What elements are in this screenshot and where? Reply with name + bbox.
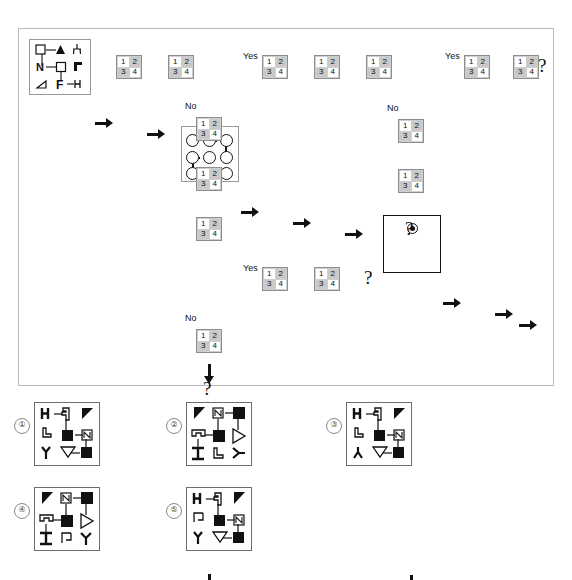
grid-cell: 2 bbox=[210, 331, 221, 341]
branch-label-yes: Yes bbox=[243, 52, 258, 61]
grid-cell: 1 bbox=[400, 171, 411, 181]
option-number: ⑤ bbox=[166, 503, 182, 519]
option-5-glyphs bbox=[187, 488, 251, 550]
grid-cell: 3 bbox=[198, 130, 209, 140]
arrow-right bbox=[345, 229, 363, 240]
grid-cell: 3 bbox=[400, 132, 411, 142]
grid-cell: 3 bbox=[400, 182, 411, 192]
branch-label-yes: Yes bbox=[445, 52, 460, 61]
grid-cell: 4 bbox=[276, 68, 287, 78]
node-circle bbox=[203, 151, 216, 164]
grid-cell: 4 bbox=[527, 68, 538, 78]
branch-label-yes: Yes bbox=[243, 264, 258, 273]
grid-cell: 4 bbox=[182, 68, 193, 78]
grid-cell: 1 bbox=[198, 169, 209, 179]
grid-cell: 3 bbox=[198, 230, 209, 240]
grid-cell: 4 bbox=[380, 68, 391, 78]
grid-cell: 1 bbox=[466, 57, 477, 67]
grid-cell: 3 bbox=[316, 280, 327, 290]
grid-cell: 2 bbox=[210, 169, 221, 179]
grid-cell: 3 bbox=[198, 342, 209, 352]
grid-cell: 2 bbox=[276, 269, 287, 279]
state-grid: 1 2 3 4 bbox=[398, 169, 424, 193]
state-grid: 1 2 3 4 bbox=[513, 55, 539, 79]
unknown-result: ? bbox=[364, 268, 372, 287]
option-number: ② bbox=[166, 418, 182, 434]
svg-text:N: N bbox=[36, 61, 44, 73]
state-grid: 1 2 3 4 bbox=[314, 55, 340, 79]
branch-label-no: No bbox=[387, 104, 399, 113]
arrow-right bbox=[495, 309, 513, 320]
option-symbol-box[interactable] bbox=[34, 402, 100, 466]
node-circle bbox=[186, 151, 199, 164]
grid-cell: 4 bbox=[210, 130, 221, 140]
option-symbol-box[interactable] bbox=[186, 487, 252, 551]
grid-cell: 4 bbox=[328, 280, 339, 290]
grid-cell: 3 bbox=[264, 68, 275, 78]
option-number: ① bbox=[14, 418, 30, 434]
grid-cell: 4 bbox=[210, 180, 221, 190]
option-number: ③ bbox=[326, 418, 342, 434]
grid-cell: 1 bbox=[264, 57, 275, 67]
arrow-right bbox=[519, 320, 537, 331]
option-1-glyphs bbox=[35, 403, 99, 465]
option-4-glyphs bbox=[35, 488, 99, 550]
grid-cell: 1 bbox=[198, 119, 209, 129]
state-grid: 1 2 3 4 bbox=[196, 167, 222, 191]
state-grid: 1 2 3 4 bbox=[464, 55, 490, 79]
option-symbol-box[interactable] bbox=[34, 487, 100, 551]
grid-cell: 1 bbox=[198, 219, 209, 229]
grid-cell: 2 bbox=[380, 57, 391, 67]
grid-cell: 4 bbox=[210, 342, 221, 352]
grid-cell: 2 bbox=[328, 57, 339, 67]
option-symbol-box[interactable] bbox=[186, 402, 252, 466]
flowchart-panel: N F 1 2 3 4 1 2 3 4 bbox=[18, 28, 554, 386]
option-symbol-box[interactable] bbox=[346, 402, 412, 466]
grid-cell: 3 bbox=[515, 68, 526, 78]
grid-cell: 2 bbox=[210, 119, 221, 129]
grid-cell: 2 bbox=[527, 57, 538, 67]
unknown-result: ? bbox=[405, 219, 413, 238]
state-grid: 1 2 3 4 bbox=[116, 55, 142, 79]
grid-cell: 3 bbox=[316, 68, 327, 78]
grid-cell: 4 bbox=[276, 280, 287, 290]
option-3-glyphs bbox=[347, 403, 411, 465]
grid-cell: 2 bbox=[130, 57, 141, 67]
grid-cell: 1 bbox=[316, 269, 327, 279]
grid-cell: 3 bbox=[264, 280, 275, 290]
arrow-right bbox=[443, 298, 461, 309]
grid-cell: 2 bbox=[210, 219, 221, 229]
grid-cell: 4 bbox=[412, 132, 423, 142]
grid-cell: 2 bbox=[412, 121, 423, 131]
grid-cell: 1 bbox=[368, 57, 379, 67]
node-circle bbox=[220, 151, 233, 164]
state-grid: 1 2 3 4 bbox=[398, 119, 424, 143]
grid-cell: 4 bbox=[328, 68, 339, 78]
grid-cell: 4 bbox=[412, 182, 423, 192]
state-grid: 1 2 3 4 bbox=[314, 267, 340, 291]
unknown-result: ? bbox=[203, 379, 211, 398]
source-symbol-glyphs: N F bbox=[30, 40, 90, 94]
grid-cell: 2 bbox=[478, 57, 489, 67]
unknown-result: ? bbox=[538, 56, 546, 75]
grid-cell: 4 bbox=[478, 68, 489, 78]
grid-cell: 3 bbox=[466, 68, 477, 78]
grid-cell: 3 bbox=[170, 68, 181, 78]
grid-cell: 2 bbox=[276, 57, 287, 67]
grid-cell: 1 bbox=[118, 57, 129, 67]
arrow-right bbox=[293, 218, 311, 229]
grid-cell: 1 bbox=[400, 121, 411, 131]
grid-cell: 1 bbox=[515, 57, 526, 67]
arrow-right bbox=[147, 129, 165, 140]
arrow-down bbox=[406, 575, 417, 580]
state-grid: 1 2 3 4 bbox=[196, 329, 222, 353]
state-grid: 1 2 3 4 bbox=[168, 55, 194, 79]
grid-cell: 3 bbox=[118, 68, 129, 78]
grid-cell: 1 bbox=[316, 57, 327, 67]
state-grid: 1 2 3 4 bbox=[196, 117, 222, 141]
arrow-down bbox=[204, 574, 215, 580]
grid-cell: 1 bbox=[198, 331, 209, 341]
state-grid: 1 2 3 4 bbox=[262, 267, 288, 291]
grid-cell: 1 bbox=[264, 269, 275, 279]
grid-cell: 3 bbox=[198, 180, 209, 190]
